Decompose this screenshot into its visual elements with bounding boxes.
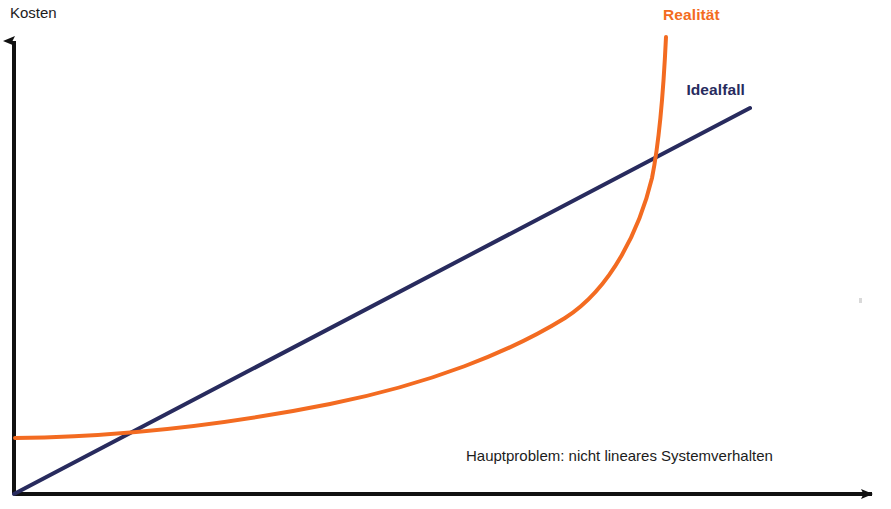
series-label-realitaet: Realität <box>663 6 720 23</box>
series-label-idealfall: Idealfall <box>686 81 745 98</box>
chart-container: Kosten Idealfall Realität Hauptproblem: … <box>0 0 891 509</box>
scan-speck <box>859 298 862 303</box>
cost-vs-time-line-chart: Kosten Idealfall Realität Hauptproblem: … <box>0 0 891 509</box>
annotation-hauptproblem: Hauptproblem: nicht lineares Systemverha… <box>466 447 773 464</box>
y-axis-label: Kosten <box>10 4 57 21</box>
